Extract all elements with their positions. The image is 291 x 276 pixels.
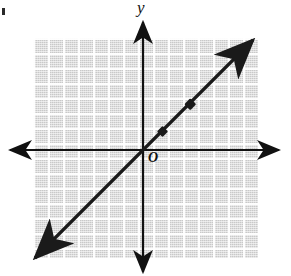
y-axis-label: y — [137, 0, 145, 18]
labels-group: y O — [0, 0, 291, 276]
corner-tick-mark — [2, 8, 5, 15]
coordinate-plane-figure: y O — [0, 0, 291, 276]
origin-label: O — [148, 150, 158, 166]
